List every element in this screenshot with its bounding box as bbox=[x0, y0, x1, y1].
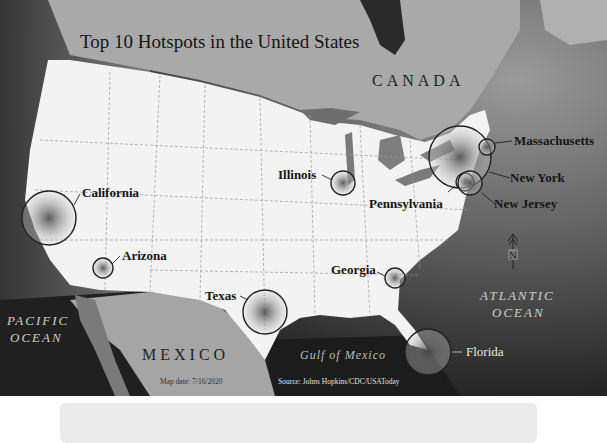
label-pacific-1: PACIFIC bbox=[6, 313, 69, 328]
map-source: Source: Johns Hopkins/CDC/USAToday bbox=[278, 377, 400, 386]
hotspot-georgia bbox=[385, 268, 405, 288]
hotspot-new-jersey bbox=[458, 171, 482, 195]
hotspot-texas bbox=[243, 290, 287, 334]
label-pacific-2: OCEAN bbox=[10, 330, 63, 345]
hotspot-california bbox=[22, 191, 76, 245]
north-label: N bbox=[509, 249, 517, 261]
label-arizona: Arizona bbox=[122, 248, 167, 263]
label-illinois: Illinois bbox=[278, 167, 316, 182]
label-california: California bbox=[82, 185, 140, 200]
label-massachusetts: Massachusetts bbox=[514, 133, 594, 148]
map-date: Map date: 7/16/2020 bbox=[160, 377, 223, 386]
label-pennsylvania: Pennsylvania bbox=[369, 196, 443, 211]
hotspot-massachusetts bbox=[479, 139, 495, 155]
label-gulf-of-mexico: Gulf of Mexico bbox=[300, 348, 386, 362]
label-florida: Florida bbox=[466, 344, 504, 359]
hotspot-florida bbox=[405, 329, 451, 375]
caption-box bbox=[60, 403, 537, 443]
hotspot-arizona bbox=[93, 258, 113, 278]
label-new-jersey: New Jersey bbox=[494, 196, 558, 211]
label-atlantic-2: OCEAN bbox=[492, 305, 545, 320]
map-title: Top 10 Hotspots in the United States bbox=[80, 31, 359, 52]
hotspot-map: Top 10 Hotspots in the United States CAN… bbox=[0, 0, 607, 396]
label-new-york: New York bbox=[510, 170, 566, 185]
label-canada: CANADA bbox=[372, 72, 464, 89]
label-texas: Texas bbox=[205, 288, 236, 303]
label-atlantic-1: ATLANTIC bbox=[479, 288, 555, 303]
label-mexico: MEXICO bbox=[142, 346, 229, 363]
hotspot-illinois bbox=[331, 171, 355, 195]
label-georgia: Georgia bbox=[331, 262, 376, 277]
